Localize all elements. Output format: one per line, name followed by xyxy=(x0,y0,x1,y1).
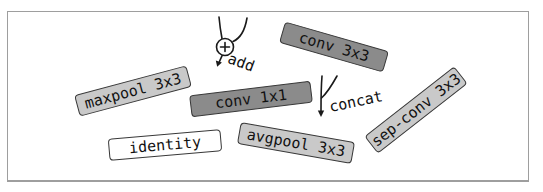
diagram-canvas: maxpool 3x3 conv 3x3 conv 1x1 identity a… xyxy=(0,0,543,192)
